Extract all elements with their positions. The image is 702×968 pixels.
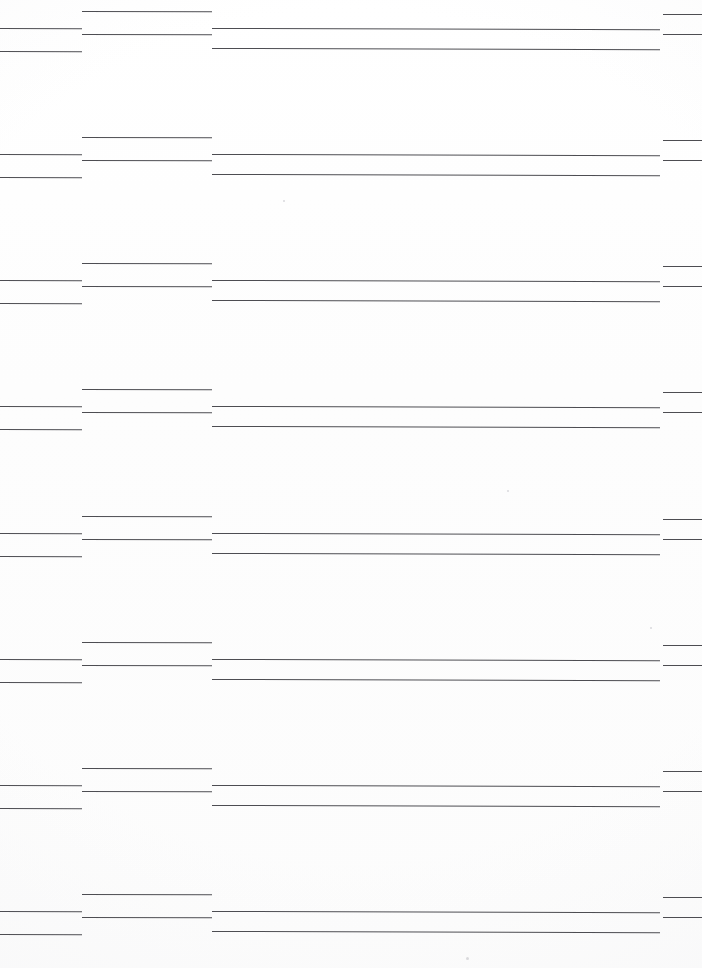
rule-line [0,154,82,155]
rule-group [0,883,702,943]
rule-line [663,286,702,287]
rule-line [212,659,660,661]
rule-line [82,286,212,287]
rule-group [0,757,702,817]
rule-line [0,934,82,935]
rule-line [663,392,702,393]
rule-line [663,897,702,898]
rule-line [212,174,660,176]
rule-line [0,911,82,912]
rule-line [82,34,212,35]
rule-line [0,303,82,304]
rule-line [0,406,82,407]
rule-line [212,426,660,428]
rule-layer [0,0,702,968]
rule-line [82,389,212,390]
rule-line [82,516,212,517]
rule-line [0,177,82,178]
rule-line [212,931,660,933]
rule-line [212,48,660,50]
rule-line [212,805,660,807]
rule-line [212,154,660,156]
rule-line [82,263,212,264]
rule-line [0,808,82,809]
rule-line [212,533,660,535]
scan-artifact [466,957,469,960]
rule-group [0,505,702,565]
rule-line [212,553,660,555]
rule-line [663,645,702,646]
rule-line [0,682,82,683]
rule-line [82,665,212,666]
rule-line [212,300,660,302]
rule-line [663,160,702,161]
rule-line [82,160,212,161]
rule-line [82,917,212,918]
rule-group [0,126,702,186]
scan-artifact [507,490,509,492]
rule-group [0,631,702,691]
rule-line [82,642,212,643]
rule-line [82,894,212,895]
rule-line [663,412,702,413]
rule-line [82,412,212,413]
rule-line [0,280,82,281]
rule-line [663,665,702,666]
rule-line [0,429,82,430]
rule-line [663,266,702,267]
rule-line [82,11,212,12]
rule-line [212,679,660,681]
rule-line [0,533,82,534]
rule-line [663,34,702,35]
rule-line [663,791,702,792]
rule-line [663,917,702,918]
scan-artifact [283,200,285,202]
rule-group [0,0,702,60]
rule-line [212,28,660,30]
rule-group [0,252,702,312]
rule-line [0,659,82,660]
rule-line [212,280,660,282]
rule-line [663,771,702,772]
rule-line [82,137,212,138]
scanned-page [0,0,702,968]
rule-line [212,785,660,787]
rule-line [663,140,702,141]
rule-line [0,556,82,557]
rule-line [0,785,82,786]
rule-group [0,378,702,438]
rule-line [0,28,82,29]
rule-line [663,539,702,540]
rule-line [663,519,702,520]
rule-line [663,14,702,15]
rule-line [82,791,212,792]
rule-line [82,768,212,769]
scan-artifact [650,627,652,629]
rule-line [82,539,212,540]
rule-line [212,406,660,408]
rule-line [212,911,660,913]
rule-line [0,51,82,52]
